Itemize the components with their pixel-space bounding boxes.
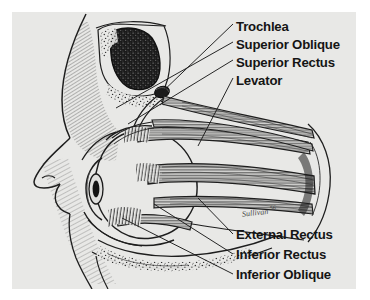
label-superior-rectus: Superior Rectus <box>236 56 335 69</box>
label-superior-oblique: Superior Oblique <box>236 38 340 51</box>
figure-root: Sullivan56 Trochlea Superior Oblique Sup… <box>0 0 370 300</box>
label-external-rectus: External Rectus <box>236 228 333 241</box>
label-inferior-oblique: Inferior Oblique <box>236 268 331 281</box>
external-rectus-insertion <box>136 163 160 184</box>
label-trochlea: Trochlea <box>236 20 289 33</box>
pupil <box>93 181 100 198</box>
label-inferior-rectus: Inferior Rectus <box>236 248 326 261</box>
illustration-panel: Sullivan56 Trochlea Superior Oblique Sup… <box>12 12 356 289</box>
label-levator: Levator <box>236 74 282 87</box>
signature-suffix: 56 <box>270 204 277 211</box>
